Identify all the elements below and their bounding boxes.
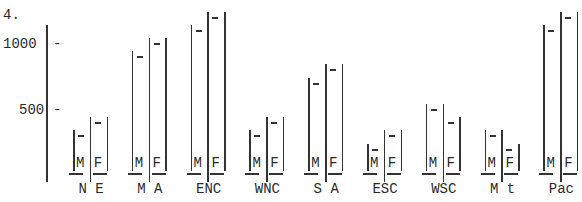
bar-m-value-marker — [254, 135, 260, 137]
bar-separator — [443, 104, 445, 182]
bar-m-left-edge — [73, 130, 75, 171]
bar-m-label: M — [194, 156, 202, 170]
bar-m-left-edge — [249, 130, 251, 171]
bar-m-value-marker — [431, 109, 437, 111]
baseline-f — [504, 173, 518, 175]
bar-m-value-marker — [548, 30, 554, 32]
bar-f-right-edge — [401, 130, 403, 171]
bar-m-value-marker — [490, 135, 496, 137]
category-label: N E — [74, 182, 108, 196]
bar-m-value-marker — [196, 30, 202, 32]
bar-m-left-edge — [485, 130, 487, 171]
bar-f-label: F — [505, 156, 513, 170]
baseline-f — [563, 173, 577, 175]
bar-f-value-marker — [330, 69, 336, 71]
bar-m-value-marker — [78, 135, 84, 137]
category-label: WSC — [427, 182, 461, 196]
category-label: M A — [133, 182, 167, 196]
bar-f-label: F — [447, 156, 455, 170]
baseline-m — [128, 173, 142, 175]
bar-separator — [560, 12, 562, 182]
category-label: M t — [486, 182, 520, 196]
bar-m-label: M — [76, 156, 84, 170]
y-tick-label-1000: 1000 — [3, 37, 37, 51]
bar-f-right-edge — [283, 117, 285, 171]
bar-f-label: F — [388, 156, 396, 170]
bar-f-value-marker — [271, 122, 277, 124]
bar-m-value-marker — [372, 149, 378, 151]
baseline-m — [481, 173, 495, 175]
bar-m-label: M — [311, 156, 319, 170]
category-label: WNC — [250, 182, 284, 196]
bar-f-right-edge — [107, 117, 109, 171]
bar-m-value-marker — [137, 56, 143, 58]
bar-f-right-edge — [342, 64, 344, 171]
baseline-f — [93, 173, 107, 175]
bar-f-value-marker — [154, 43, 160, 45]
bar-separator — [501, 130, 503, 182]
y-tick-mark-1000: - — [53, 37, 61, 51]
baseline-m — [69, 173, 83, 175]
bar-separator — [90, 117, 92, 182]
baseline-f — [387, 173, 401, 175]
bar-f-label: F — [564, 156, 572, 170]
bar-f-value-marker — [389, 135, 395, 137]
bar-m-left-edge — [191, 25, 193, 171]
bar-separator — [149, 38, 151, 182]
bar-m-left-edge — [132, 51, 134, 171]
bar-f-right-edge — [165, 38, 167, 171]
bar-separator — [325, 64, 327, 182]
baseline-f — [152, 173, 166, 175]
bar-m-left-edge — [426, 104, 428, 171]
baseline-m — [422, 173, 436, 175]
bar-m-value-marker — [313, 83, 319, 85]
bar-f-label: F — [94, 156, 102, 170]
baseline-m — [304, 173, 318, 175]
y-axis-line — [46, 25, 48, 182]
baseline-m — [363, 173, 377, 175]
bar-m-left-edge — [367, 144, 369, 171]
bar-f-label: F — [211, 156, 219, 170]
bar-m-label: M — [370, 156, 378, 170]
bar-f-right-edge — [224, 12, 226, 171]
bar-f-value-marker — [565, 17, 571, 19]
category-label: ENC — [192, 182, 226, 196]
y-tick-mark-500: - — [53, 103, 61, 117]
bar-f-right-edge — [518, 144, 520, 171]
bar-f-label: F — [270, 156, 278, 170]
category-label: ESC — [368, 182, 402, 196]
bar-m-left-edge — [543, 25, 545, 171]
bar-f-value-marker — [95, 122, 101, 124]
baseline-f — [210, 173, 224, 175]
category-label: S A — [309, 182, 343, 196]
baseline-f — [328, 173, 342, 175]
bar-separator — [207, 12, 209, 182]
bar-m-left-edge — [308, 78, 310, 171]
baseline-m — [539, 173, 553, 175]
bar-f-right-edge — [577, 12, 579, 171]
bar-m-label: M — [252, 156, 260, 170]
chart-title: 4. — [3, 8, 20, 22]
baseline-m — [187, 173, 201, 175]
baseline-m — [245, 173, 259, 175]
bar-m-label: M — [488, 156, 496, 170]
bar-f-right-edge — [459, 117, 461, 171]
y-tick-label-500: 500 — [19, 103, 44, 117]
baseline-f — [269, 173, 283, 175]
bar-m-label: M — [429, 156, 437, 170]
bar-m-label: M — [135, 156, 143, 170]
bar-f-value-marker — [448, 122, 454, 124]
bar-f-label: F — [153, 156, 161, 170]
category-label: Pac — [544, 182, 578, 196]
baseline-f — [446, 173, 460, 175]
bar-separator — [266, 117, 268, 182]
bar-m-label: M — [546, 156, 554, 170]
bar-f-value-marker — [212, 17, 218, 19]
bar-separator — [384, 130, 386, 182]
bar-f-value-marker — [506, 149, 512, 151]
bar-f-label: F — [329, 156, 337, 170]
